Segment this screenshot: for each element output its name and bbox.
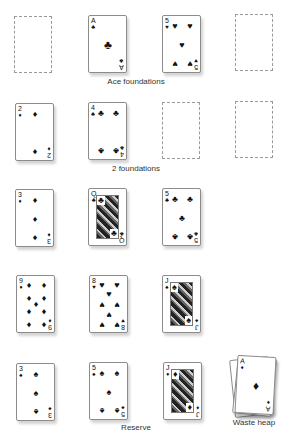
hearts-icon: ♥ xyxy=(106,310,111,319)
card-index: 2♦ xyxy=(47,146,51,159)
jack-face-art: ♦ ♦ xyxy=(171,369,194,413)
card-index: 5♣ xyxy=(165,190,169,203)
card-queen-of-clubs[interactable]: Q♣ ♣ ♣ Q♣ xyxy=(88,188,127,246)
hearts-icon: ♥ xyxy=(179,41,184,50)
card-index: A♦ xyxy=(266,400,271,413)
spades-icon: ♠ xyxy=(171,283,178,292)
card-index: 5♠ xyxy=(121,405,125,418)
card-ace-of-clubs[interactable]: A♣ ♣ A♣ xyxy=(88,15,127,73)
card-index: Q♣ xyxy=(119,231,124,244)
card-index: 4♣ xyxy=(120,145,124,158)
spades-icon: ♠ xyxy=(100,406,105,415)
card-index: J♠ xyxy=(165,277,169,290)
spades-icon: ♠ xyxy=(185,316,192,325)
clubs-icon: ♣ xyxy=(172,232,178,241)
ace-foundation-slot-4[interactable] xyxy=(235,14,273,71)
spades-icon: ♠ xyxy=(34,370,39,379)
spades-icon: ♠ xyxy=(100,369,105,378)
diamonds-icon: ♦ xyxy=(33,147,38,156)
clubs-icon: ♣ xyxy=(187,232,193,241)
card-index: 5♥ xyxy=(165,17,169,30)
hearts-icon: ♥ xyxy=(114,320,119,329)
clubs-icon: ♣ xyxy=(187,195,193,204)
card-2-of-diamonds[interactable]: 2♦ ♦ ♦ 2♦ xyxy=(15,103,54,161)
reserve-label: Reserve xyxy=(121,423,151,432)
clubs-icon: ♣ xyxy=(179,214,185,223)
card-5-of-spades[interactable]: 5♠ ♠ ♠ ♠ ♠ ♠ 5♠ xyxy=(89,362,128,420)
hearts-icon: ♥ xyxy=(106,290,111,299)
card-index: 5♣ xyxy=(194,231,198,244)
hearts-icon: ♥ xyxy=(172,22,177,31)
card-5-of-hearts[interactable]: 5♥ ♥ ♥ ♥ ♥ ♥ 5♥ xyxy=(162,15,201,73)
card-8-of-hearts[interactable]: 8♥ ♥ ♥ ♥ ♥ ♥ ♥ ♥ ♥ 8♥ xyxy=(89,275,128,333)
hearts-icon: ♥ xyxy=(99,281,104,290)
card-index: 5♠ xyxy=(92,364,96,377)
diamonds-icon: ♦ xyxy=(27,320,32,329)
ace-foundations-label: Ace foundations xyxy=(107,77,164,86)
diamonds-icon: ♦ xyxy=(33,215,38,224)
hearts-icon: ♥ xyxy=(114,300,119,309)
spades-icon: ♠ xyxy=(115,369,120,378)
card-index: 3♠ xyxy=(19,365,23,378)
clubs-icon: ♣ xyxy=(104,39,112,51)
queen-face-art: ♣ ♣ xyxy=(96,195,119,239)
diamonds-icon: ♦ xyxy=(27,307,32,316)
clubs-icon: ♣ xyxy=(110,229,118,238)
card-index: 3♦ xyxy=(18,191,22,204)
diamonds-icon: ♦ xyxy=(27,294,32,303)
hearts-icon: ♥ xyxy=(99,320,104,329)
card-index: A♣ xyxy=(91,17,96,30)
card-index: 9♦ xyxy=(19,277,23,290)
card-9-of-diamonds[interactable]: 9♦ ♦ ♦ ♦ ♦ ♦ ♦ ♦ ♦ ♦ 9♦ xyxy=(16,275,55,333)
two-foundation-slot-4[interactable] xyxy=(235,101,273,158)
card-index: 9♦ xyxy=(48,318,52,331)
clubs-icon: ♣ xyxy=(113,146,119,155)
clubs-icon: ♣ xyxy=(113,109,119,118)
card-index: 5♥ xyxy=(194,58,198,71)
jack-face-art: ♠ ♠ xyxy=(170,282,193,326)
card-5-of-clubs[interactable]: 5♣ ♣ ♣ ♣ ♣ ♣ 5♣ xyxy=(162,188,201,246)
spades-icon: ♠ xyxy=(34,389,39,398)
two-foundations-label: 2 foundations xyxy=(112,164,160,173)
card-index: J♦ xyxy=(196,405,200,418)
diamonds-icon: ♦ xyxy=(33,196,38,205)
diamonds-icon: ♦ xyxy=(172,370,179,379)
hearts-icon: ♥ xyxy=(99,300,104,309)
card-index: A♦ xyxy=(240,357,245,370)
card-4-of-clubs[interactable]: 4♣ ♣ ♣ ♣ ♣ 4♣ xyxy=(88,102,127,160)
hearts-icon: ♥ xyxy=(187,59,192,68)
hearts-icon: ♥ xyxy=(114,281,119,290)
card-jack-of-diamonds[interactable]: J♦ ♦ ♦ J♦ xyxy=(163,362,202,420)
card-index: 4♣ xyxy=(91,104,95,117)
card-3-of-spades[interactable]: 3♠ ♠ ♠ ♠ 3♠ xyxy=(16,363,55,421)
card-index: 2♦ xyxy=(18,105,22,118)
card-index: 8♥ xyxy=(121,318,125,331)
card-ace-of-diamonds[interactable]: A♦ ♦ A♦ xyxy=(235,355,277,415)
card-jack-of-spades[interactable]: J♠ ♠ ♠ J♠ xyxy=(162,275,201,333)
diamonds-icon: ♦ xyxy=(42,320,47,329)
clubs-icon: ♣ xyxy=(97,196,105,205)
clubs-icon: ♣ xyxy=(172,195,178,204)
diamonds-icon: ♦ xyxy=(33,233,38,242)
diamonds-icon: ♦ xyxy=(27,281,32,290)
card-3-of-diamonds[interactable]: 3♦ ♦ ♦ ♦ 3♦ xyxy=(15,189,54,247)
card-index: 8♥ xyxy=(92,277,96,290)
clubs-icon: ♣ xyxy=(98,109,104,118)
card-index: 3♦ xyxy=(47,232,51,245)
hearts-icon: ♥ xyxy=(172,59,177,68)
spades-icon: ♠ xyxy=(115,406,120,415)
spades-icon: ♠ xyxy=(107,388,112,397)
card-index: J♦ xyxy=(166,364,170,377)
waste-heap-label: Waste heap xyxy=(233,418,275,427)
diamonds-icon: ♦ xyxy=(42,294,47,303)
ace-foundation-slot-1[interactable] xyxy=(14,16,52,73)
two-foundation-slot-3[interactable] xyxy=(162,102,200,159)
card-index: J♠ xyxy=(195,318,199,331)
card-index: A♣ xyxy=(119,58,124,71)
diamonds-icon: ♦ xyxy=(42,281,47,290)
diamonds-icon: ♦ xyxy=(42,307,47,316)
diamonds-icon: ♦ xyxy=(34,300,39,309)
diamonds-icon: ♦ xyxy=(186,403,193,412)
diamonds-icon: ♦ xyxy=(253,380,260,392)
clubs-icon: ♣ xyxy=(98,146,104,155)
